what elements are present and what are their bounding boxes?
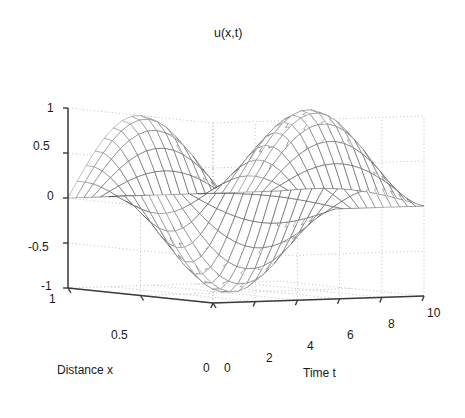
- y-tick-label: 0: [224, 361, 231, 375]
- figure-canvas: u(x,t) Distance x Time t 1 0.5 0 -0.5 -1…: [0, 0, 465, 418]
- z-tick-label: -1: [41, 279, 52, 293]
- y-tick-label: 10: [427, 306, 440, 320]
- plot-svg: [0, 0, 465, 418]
- z-tick-label: 0.5: [33, 139, 50, 153]
- y-tick-label: 6: [347, 328, 354, 342]
- y-tick-label: 8: [388, 317, 395, 331]
- plot-title: u(x,t): [214, 26, 242, 40]
- z-tick-label: 0: [47, 189, 54, 203]
- y-axis-label: Time t: [303, 366, 336, 380]
- z-tick-label: 1: [47, 101, 54, 115]
- surface-mesh: [68, 110, 424, 292]
- y-tick-label: 2: [266, 351, 273, 365]
- x-tick-label: 0.5: [111, 328, 128, 342]
- z-tick-label: -0.5: [28, 240, 49, 254]
- x-axis-label: Distance x: [57, 363, 113, 377]
- x-tick-label: 0: [203, 361, 210, 375]
- x-tick-label: 1: [49, 292, 56, 306]
- y-tick-label: 4: [307, 339, 314, 353]
